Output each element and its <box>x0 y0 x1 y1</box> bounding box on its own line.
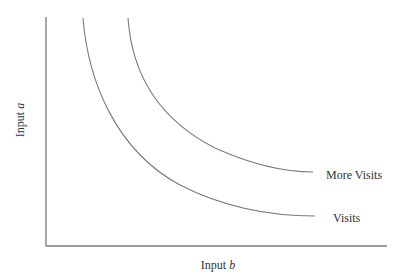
curve-label-more-visits: More Visits <box>326 168 382 183</box>
curve-visits <box>83 18 315 216</box>
x-axis-label: Input b <box>201 258 235 273</box>
y-axis-label: Input a <box>13 103 28 137</box>
curve-more-visits <box>128 18 313 172</box>
isoquant-chart <box>0 0 406 280</box>
curve-label-visits: Visits <box>333 211 360 226</box>
